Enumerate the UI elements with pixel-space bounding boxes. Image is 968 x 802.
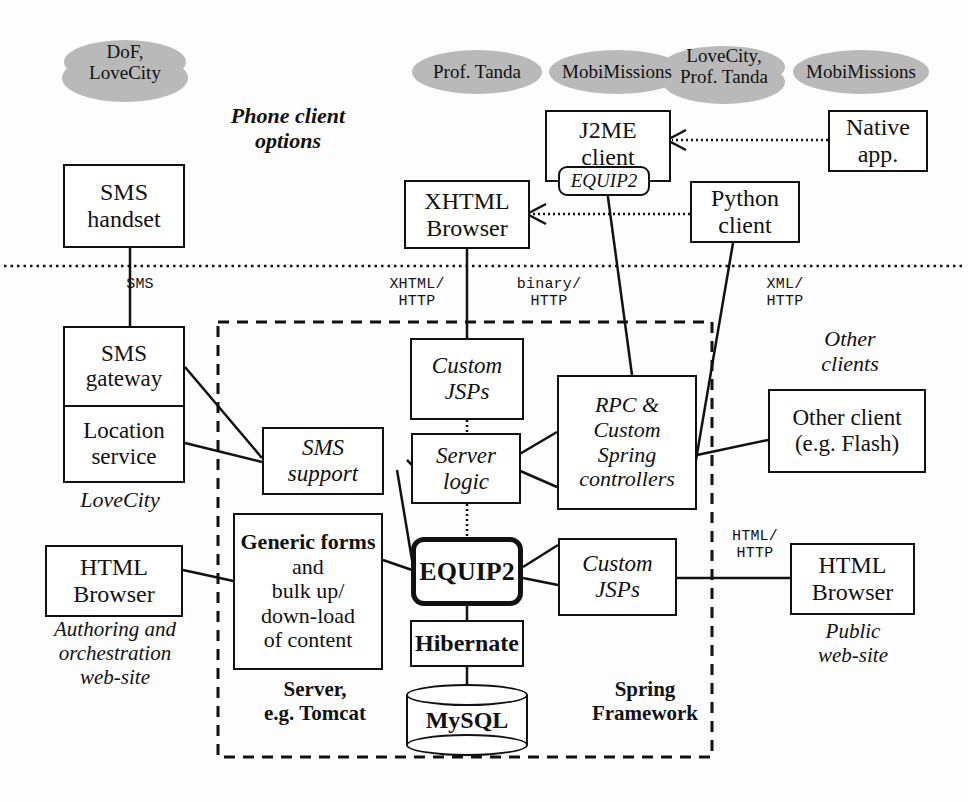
node-sms-gateway-stack: SMS gateway Location service [63, 326, 185, 483]
tag-mobimissions-1-label: MobiMissions [562, 62, 672, 83]
caption-phone-client-options: Phone client options [178, 103, 398, 153]
node-html-browser-left[interactable]: HTML Browser [45, 545, 183, 617]
caption-authoring-orchestration: Authoring and orchestration web-site [20, 618, 210, 690]
node-other-client[interactable]: Other client (e.g. Flash) [768, 389, 926, 473]
protocol-label-xml-http: XML/ HTTP [745, 276, 825, 311]
tag-lovecity-tanda: LoveCity, Prof. Tanda [663, 60, 785, 104]
link-gateway-sms-support [185, 367, 262, 458]
tag-mobimissions-2-label: MobiMissions [806, 62, 916, 83]
link-equip2-rpc [523, 545, 558, 567]
node-sms-handset-label: SMS handset [65, 179, 183, 233]
node-j2me-client-label: J2ME client [547, 117, 669, 171]
protocol-label-sms: SMS [100, 276, 180, 293]
caption-public-website: Public web-site [778, 620, 928, 668]
tag-lovecity-tanda-label: LoveCity, Prof. Tanda [657, 46, 791, 87]
node-location-service-label: Location service [65, 418, 183, 470]
node-mysql[interactable]: MySQL [406, 684, 528, 756]
node-hibernate-label: Hibernate [412, 630, 522, 657]
tag-mobimissions-2: MobiMissions [793, 50, 929, 94]
tag-prof-tanda-label: Prof. Tanda [433, 62, 521, 83]
link-equip2-custom-jsps [523, 578, 558, 585]
node-sms-support[interactable]: SMS support [262, 427, 384, 495]
node-custom-jsps-bottom[interactable]: Custom JSPs [558, 538, 677, 616]
node-server-logic-label: Server logic [413, 443, 519, 495]
node-sms-support-label: SMS support [264, 435, 382, 487]
caption-other-clients: Other clients [770, 326, 930, 376]
link-server-logic-rpc [518, 432, 557, 455]
node-sms-gateway[interactable]: SMS gateway [65, 328, 183, 405]
node-mysql-label: MySQL [406, 684, 528, 756]
protocol-label-xhtml-http: XHTML/ HTTP [374, 276, 460, 311]
node-xhtml-browser-label: XHTML Browser [406, 188, 528, 242]
node-generic-forms-bold: Generic forms [241, 529, 376, 554]
link-server-logic-rpc-2 [518, 470, 557, 487]
caption-spring-framework: Spring Framework [555, 678, 735, 726]
node-server-logic[interactable]: Server logic [411, 433, 521, 504]
caption-lovecity: LoveCity [45, 487, 195, 512]
node-hibernate[interactable]: Hibernate [410, 620, 524, 667]
link-generic-forms-equip2 [383, 560, 412, 570]
node-sms-handset[interactable]: SMS handset [63, 164, 185, 248]
node-html-browser-right[interactable]: HTML Browser [790, 543, 915, 615]
node-native-app-label: Native app. [830, 114, 926, 168]
node-equip2-core-label: EQUIP2 [416, 557, 518, 586]
node-custom-jsps-bottom-label: Custom JSPs [560, 551, 675, 603]
node-custom-jsps-top-label: Custom JSPs [412, 353, 522, 405]
tag-prof-tanda: Prof. Tanda [412, 50, 542, 94]
link-rpc-other-client [697, 440, 768, 455]
node-html-browser-left-label: HTML Browser [47, 554, 181, 608]
node-location-service[interactable]: Location service [65, 405, 183, 481]
node-html-browser-right-label: HTML Browser [792, 552, 913, 606]
node-python-client[interactable]: Python client [690, 181, 800, 243]
link-location-sms-support [185, 443, 262, 462]
node-sms-gateway-label: SMS gateway [65, 341, 183, 393]
link-html-browser-left-generic-forms [183, 570, 238, 582]
tag-dof-lovecity-label: DoF, LoveCity [62, 42, 188, 83]
node-j2me-equip2-badge-label: EQUIP2 [571, 170, 637, 192]
node-generic-forms[interactable]: Generic forms and bulk up/ down-load of … [233, 513, 383, 670]
node-python-client-label: Python client [692, 185, 798, 239]
protocol-label-binary-http: binary/ HTTP [505, 276, 593, 311]
node-native-app[interactable]: Native app. [828, 110, 928, 172]
node-other-client-label: Other client (e.g. Flash) [770, 405, 924, 457]
node-generic-forms-label: Generic forms and bulk up/ down-load of … [235, 530, 381, 653]
node-xhtml-browser[interactable]: XHTML Browser [404, 180, 530, 249]
node-custom-jsps-top[interactable]: Custom JSPs [410, 338, 524, 420]
node-rpc-custom-spring-controllers[interactable]: RPC & Custom Spring controllers [557, 375, 697, 510]
caption-server-tomcat: Server, e.g. Tomcat [225, 678, 405, 726]
architecture-diagram: DoF, LoveCity Prof. Tanda MobiMissions L… [0, 0, 968, 802]
node-equip2-core[interactable]: EQUIP2 [411, 537, 523, 606]
protocol-label-html-http: HTML/ HTTP [716, 528, 794, 563]
node-rpc-custom-spring-controllers-label: RPC & Custom Spring controllers [559, 393, 695, 492]
node-j2me-equip2-badge[interactable]: EQUIP2 [558, 166, 650, 196]
tag-dof-lovecity: DoF, LoveCity [62, 54, 188, 102]
link-j2me-rpc [607, 190, 632, 375]
